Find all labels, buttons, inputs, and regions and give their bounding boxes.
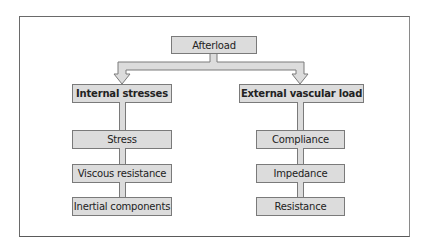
impedance-label: Impedance <box>274 168 328 179</box>
stress-label: Stress <box>107 134 137 145</box>
left-connector-1 <box>119 102 126 131</box>
afterload-box: Afterload <box>171 36 257 54</box>
resistance-box: Resistance <box>256 197 345 216</box>
external-vascular-load-box: External vascular load <box>239 84 364 103</box>
compliance-box: Compliance <box>256 130 345 149</box>
inertial-components-label: Inertial components <box>74 201 170 212</box>
arrow-connector-icon <box>114 53 308 84</box>
internal-stresses-box: Internal stresses <box>72 84 172 103</box>
impedance-box: Impedance <box>256 164 345 183</box>
left-connector-2 <box>119 148 126 165</box>
left-connector-3 <box>119 182 126 198</box>
inertial-components-box: Inertial components <box>72 197 172 216</box>
compliance-label: Compliance <box>272 134 329 145</box>
viscous-resistance-box: Viscous resistance <box>72 164 172 183</box>
right-connector-3 <box>297 182 304 198</box>
right-connector-2 <box>297 148 304 165</box>
stress-box: Stress <box>72 130 172 149</box>
viscous-resistance-label: Viscous resistance <box>78 168 167 179</box>
resistance-label: Resistance <box>275 201 327 212</box>
afterload-label: Afterload <box>192 40 236 51</box>
external-vascular-load-label: External vascular load <box>241 88 362 99</box>
internal-stresses-label: Internal stresses <box>76 88 168 99</box>
right-connector-1 <box>297 102 304 131</box>
